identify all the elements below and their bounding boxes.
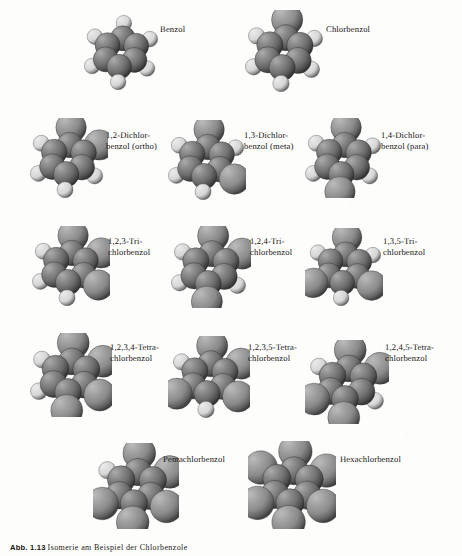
- molecule-label-pentachlorbenzol: Pentachlorbenzol: [163, 450, 225, 465]
- molecule-model-1-2-3-trichlorbenzol: [30, 226, 110, 306]
- molecule-model-1-3-dichlorbenzol-meta: [166, 120, 246, 200]
- molecule-model-benzol: [82, 12, 160, 90]
- caption-number: Abb. 1.13: [10, 543, 46, 552]
- molecule-model-1-2-3-4-tetrachlorbenzol: [28, 333, 112, 417]
- molecule-model-1-3-5-trichlorbenzol: [305, 228, 383, 306]
- molecule-label-chlorbenzol: Chlorbenzol: [326, 20, 370, 35]
- molecule-label-1-2-4-5-tetrachlorbenzol: 1,2,4,5-Tetra- chlorbenzol: [385, 338, 434, 363]
- molecule-1-2-3-5-tetrachlorbenzol: [168, 336, 250, 418]
- molecule-label-hexachlorbenzol: Hexachlorbenzol: [340, 450, 401, 465]
- molecule-model-1-2-4-trichlorbenzol: [169, 226, 251, 308]
- molecule-benzol: [82, 12, 160, 90]
- molecule-model-1-4-dichlorbenzol-para: [303, 118, 383, 198]
- figure-caption: Abb. 1.13 Isomerie am Beispiel der Chlor…: [10, 543, 450, 553]
- molecule-model-1-2-4-5-tetrachlorbenzol: [305, 340, 389, 424]
- molecule-model-1-2-dichlorbenzol-ortho: [28, 118, 108, 198]
- molecule-model-1-2-3-5-tetrachlorbenzol: [168, 336, 250, 418]
- molecule-label-1-2-dichlorbenzol-ortho: 1,2-Dichlor- benzol (ortho): [106, 126, 157, 151]
- molecule-label-1-2-4-trichlorbenzol: 1,2,4-Tri- chlorbenzol: [250, 232, 292, 257]
- molecule-label-1-2-3-trichlorbenzol: 1,2,3-Tri- chlorbenzol: [108, 232, 150, 257]
- molecule-hexachlorbenzol: [248, 441, 336, 529]
- molecule-model-chlorbenzol: [243, 10, 325, 92]
- molecule-label-1-3-5-trichlorbenzol: 1,3,5-Tri- chlorbenzol: [383, 232, 425, 257]
- figure-chlorobenzene-isomers: BenzolChlorbenzol1,2-Dichlor- benzol (or…: [0, 0, 462, 556]
- molecule-1-2-4-5-tetrachlorbenzol: [305, 340, 389, 424]
- caption-text: Isomerie am Beispiel der Chlorbenzole: [48, 543, 188, 552]
- molecule-1-4-dichlorbenzol-para: [303, 118, 383, 198]
- molecule-label-benzol: Benzol: [160, 20, 185, 35]
- molecule-chlorbenzol: [243, 10, 325, 92]
- molecule-1-3-5-trichlorbenzol: [305, 228, 383, 306]
- molecule-label-1-4-dichlorbenzol-para: 1,4-Dichlor- benzol (para): [381, 126, 429, 151]
- molecule-1-2-3-4-tetrachlorbenzol: [28, 333, 112, 417]
- molecule-label-1-2-3-4-tetrachlorbenzol: 1,2,3,4-Tetra- chlorbenzol: [110, 338, 159, 363]
- molecule-1-2-3-trichlorbenzol: [30, 226, 110, 306]
- molecule-1-2-4-trichlorbenzol: [169, 226, 251, 308]
- molecule-label-1-2-3-5-tetrachlorbenzol: 1,2,3,5-Tetra- chlorbenzol: [248, 338, 297, 363]
- molecule-1-3-dichlorbenzol-meta: [166, 120, 246, 200]
- molecule-1-2-dichlorbenzol-ortho: [28, 118, 108, 198]
- molecule-model-hexachlorbenzol: [248, 441, 336, 529]
- molecule-label-1-3-dichlorbenzol-meta: 1,3-Dichlor- benzol (meta): [244, 126, 293, 151]
